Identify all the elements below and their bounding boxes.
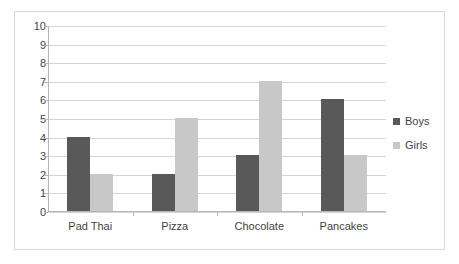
y-axis-tick-mark [44,119,48,120]
legend-swatch-boys-icon [393,118,400,125]
chart-frame: 012345678910 Pad ThaiPizzaChocolatePanca… [14,11,445,250]
y-axis-tick-mark [44,175,48,176]
category-label-pad-thai: Pad Thai [48,221,133,232]
category-label-pancakes: Pancakes [302,221,387,232]
y-axis-tick-mark [44,82,48,83]
bar-girls-chocolate[interactable] [259,81,282,211]
chart-legend: BoysGirls [393,115,429,163]
y-axis-tick-mark [44,212,48,213]
legend-item-boys[interactable]: Boys [393,115,429,127]
category-label-chocolate: Chocolate [217,221,302,232]
y-axis-tick-mark [44,100,48,101]
y-axis-tick-mark [44,26,48,27]
bar-boys-pizza[interactable] [152,174,175,211]
y-axis-tick-labels: 012345678910 [15,23,46,223]
y-axis-tick-mark [44,193,48,194]
y-axis-tick-mark [44,45,48,46]
category-tick-mark [217,212,218,216]
y-axis-tick-mark [44,63,48,64]
bar-girls-pad-thai[interactable] [90,174,113,211]
bar-group [152,25,198,211]
legend-swatch-girls-icon [393,142,400,149]
y-axis-tick-mark [44,156,48,157]
bar-boys-chocolate[interactable] [236,155,259,211]
bar-group [236,25,282,211]
category-label-pizza: Pizza [133,221,218,232]
bar-girls-pizza[interactable] [175,118,198,211]
category-tick-mark [302,212,303,216]
legend-label: Girls [405,140,428,151]
bar-group [321,25,367,211]
bar-boys-pancakes[interactable] [321,99,344,211]
plot-area [48,26,386,212]
y-axis-line [48,26,49,212]
y-axis-tick-mark [44,138,48,139]
bar-girls-pancakes[interactable] [344,155,367,211]
bar-group [67,25,113,211]
category-tick-mark [133,212,134,216]
bar-boys-pad-thai[interactable] [67,137,90,211]
legend-item-girls[interactable]: Girls [393,139,429,151]
legend-label: Boys [405,116,429,127]
